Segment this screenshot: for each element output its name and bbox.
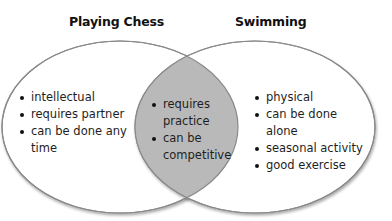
list-item: can be competitive — [152, 130, 234, 164]
overlap-items: requires practice can be competitive — [152, 96, 234, 164]
list-item: requires partner — [20, 106, 132, 123]
list-item: can be done any time — [20, 123, 132, 157]
list-item: seasonal activity — [255, 140, 367, 157]
list-item: physical — [255, 89, 367, 106]
set-title-swimming: Swimming — [235, 14, 306, 29]
list-item: requires practice — [152, 96, 234, 130]
list-item: can be done alone — [255, 106, 367, 140]
set-title-playing-chess: Playing Chess — [69, 14, 164, 29]
list-item: good exercise — [255, 157, 367, 174]
swimming-items: physical can be done alone seasonal acti… — [255, 89, 367, 174]
playing-chess-items: intellectual requires partner can be don… — [20, 89, 132, 157]
list-item: intellectual — [20, 89, 132, 106]
